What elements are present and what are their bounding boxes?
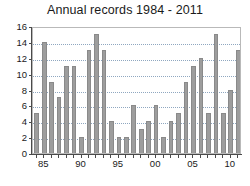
x-tick-mark (58, 155, 59, 158)
x-tick-label: 85 (38, 159, 49, 169)
x-tick-mark (103, 155, 104, 158)
y-tick-label: 12 (16, 54, 27, 64)
bar (79, 137, 84, 153)
x-tick-mark (215, 155, 216, 158)
chart-title: Annual records 1984 - 2011 (0, 3, 250, 17)
y-tick-label: 10 (16, 70, 27, 80)
x-tick-mark (140, 155, 141, 158)
bar (146, 121, 151, 153)
bar (72, 66, 77, 153)
bar (109, 121, 114, 153)
x-tick-mark (36, 155, 37, 158)
bar (206, 113, 211, 153)
bar (214, 34, 219, 153)
x-tick-label: 00 (150, 159, 161, 169)
bar (184, 82, 189, 153)
x-tick-mark (185, 155, 186, 158)
x-tick-mark (222, 155, 223, 158)
bar (221, 113, 226, 153)
bar (176, 113, 181, 153)
bar (57, 97, 62, 153)
x-tick-mark (125, 155, 126, 158)
x-tick-mark (170, 155, 171, 158)
bar (199, 58, 204, 153)
y-tick-label: 8 (22, 86, 27, 96)
y-tick-label: 6 (22, 102, 27, 112)
x-tick-mark (237, 155, 238, 158)
bar (42, 42, 47, 153)
bar (94, 34, 99, 153)
plot-area (32, 27, 241, 154)
bar (34, 113, 39, 153)
x-tick-mark (95, 155, 96, 158)
x-tick-mark (110, 155, 111, 158)
x-tick-label: 95 (113, 159, 124, 169)
bar (87, 50, 92, 153)
y-tick-label: 2 (22, 133, 27, 143)
y-tick-label: 14 (16, 38, 27, 48)
chart-figure: Annual records 1984 - 2011 0246810121416… (0, 0, 250, 186)
x-axis-ticks: 859095000510 (32, 155, 241, 173)
bar (161, 137, 166, 153)
x-tick-label: 90 (75, 159, 86, 169)
bar (191, 66, 196, 153)
x-tick-mark (148, 155, 149, 158)
bar (64, 66, 69, 153)
bar (228, 90, 233, 154)
x-tick-mark (163, 155, 164, 158)
x-tick-mark (200, 155, 201, 158)
bar (124, 137, 129, 153)
bar (139, 129, 144, 153)
bar (102, 50, 107, 153)
bar (154, 105, 159, 153)
x-tick-mark (51, 155, 52, 158)
bar-series (33, 28, 240, 153)
bar (169, 121, 174, 153)
bar (131, 105, 136, 153)
bar (49, 82, 54, 153)
x-tick-mark (66, 155, 67, 158)
x-tick-mark (207, 155, 208, 158)
y-tick-label: 16 (16, 22, 27, 32)
bar (236, 50, 241, 153)
x-tick-mark (73, 155, 74, 158)
bar (117, 137, 122, 153)
x-tick-mark (133, 155, 134, 158)
y-tick-label: 4 (22, 118, 27, 128)
x-tick-label: 10 (225, 159, 236, 169)
y-axis-ticks: 0246810121416 (0, 27, 32, 154)
y-tick-label: 0 (22, 149, 27, 159)
x-tick-mark (88, 155, 89, 158)
x-tick-label: 05 (187, 159, 198, 169)
x-tick-mark (178, 155, 179, 158)
